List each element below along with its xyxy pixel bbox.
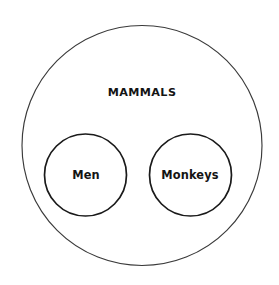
venn-diagram-svg: MAMMALS Men Monkeys (0, 0, 279, 285)
set-label-mammals: MAMMALS (108, 86, 177, 99)
euler-diagram-canvas: MAMMALS Men Monkeys (0, 0, 279, 285)
set-label-men: Men (72, 168, 100, 182)
set-label-monkeys: Monkeys (161, 168, 219, 182)
